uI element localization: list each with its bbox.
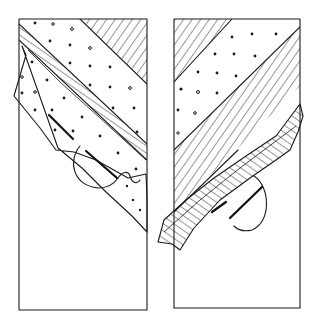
marker-bar-2 bbox=[86, 151, 117, 178]
right-panel bbox=[158, 19, 303, 308]
marker-bar-1 bbox=[49, 115, 73, 139]
two-panel-diagram bbox=[0, 0, 317, 321]
marker-bar-right-2 bbox=[230, 187, 262, 218]
left-panel bbox=[14, 19, 147, 310]
